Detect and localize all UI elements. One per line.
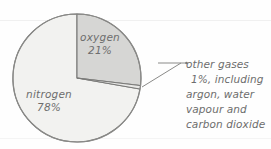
annotation-line-3: argon, water xyxy=(186,87,271,102)
other-gases-annotation: other gases 1%, including argon, water v… xyxy=(186,57,271,132)
annotation-line-5: carbon dioxide xyxy=(186,117,271,132)
pie-label-oxygen: oxygen 21% xyxy=(74,31,126,56)
callout-leader-line xyxy=(142,63,181,87)
pie-chart-figure: oxygen 21% nitrogen 78% other gases 1%, … xyxy=(0,0,271,149)
pie-label-oxygen-value: 21% xyxy=(74,44,126,57)
annotation-line-4: vapour and xyxy=(186,102,271,117)
pie-label-nitrogen-value: 78% xyxy=(18,101,80,114)
pie-label-nitrogen: nitrogen 78% xyxy=(18,88,80,113)
annotation-line-1: other gases xyxy=(186,57,271,72)
pie-label-oxygen-name: oxygen xyxy=(80,31,120,43)
pie-label-nitrogen-name: nitrogen xyxy=(26,88,72,100)
annotation-line-2: 1%, including xyxy=(186,72,271,87)
